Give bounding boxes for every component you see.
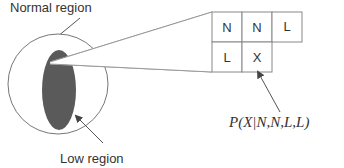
probability-formula: P(X|N,N,L,L)	[228, 114, 309, 131]
formula-arrow	[258, 72, 280, 112]
normal-region-label: Normal region	[10, 0, 92, 15]
probability-neighborhood-diagram: Normal region N N L L X P(X|N,N,L,L) Low…	[0, 0, 344, 168]
grid-cell-text: X	[253, 50, 262, 65]
grid-cell-text: N	[222, 20, 231, 35]
grid-cell-text: L	[223, 50, 230, 65]
grid-cell-text: L	[283, 19, 290, 34]
grid-cell-text: N	[252, 20, 261, 35]
low-region-label: Low region	[60, 151, 124, 166]
